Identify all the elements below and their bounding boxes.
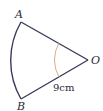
point-label-B: B — [16, 100, 25, 111]
point-label-O: O — [91, 54, 100, 67]
angle-arc — [54, 43, 59, 77]
sector-diagram: A B O 9cm — [0, 0, 103, 111]
point-label-A: A — [14, 8, 23, 21]
radius-length-label: 9cm — [53, 82, 75, 93]
arc-AB — [11, 22, 21, 99]
